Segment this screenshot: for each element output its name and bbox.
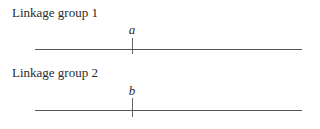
locus-a-tick <box>132 38 133 54</box>
locus-a-label: a <box>129 23 136 37</box>
chromosome-line-2 <box>35 110 302 111</box>
group-1-label: Linkage group 1 <box>12 6 98 20</box>
locus-b-label: b <box>129 84 136 98</box>
locus-b-tick <box>132 98 133 117</box>
chromosome-line-1 <box>35 49 302 50</box>
group-2-label: Linkage group 2 <box>12 66 98 80</box>
